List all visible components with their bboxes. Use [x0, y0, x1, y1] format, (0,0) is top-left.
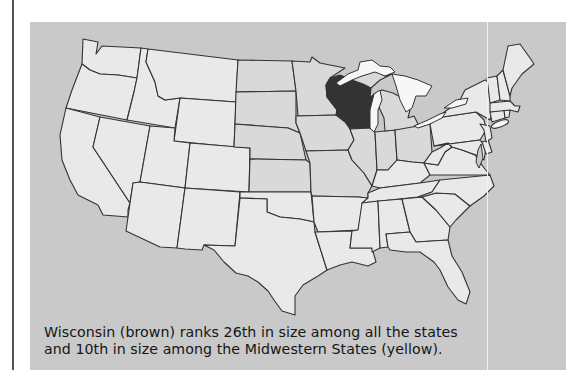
state-massachusetts — [490, 101, 520, 112]
state-arizona — [126, 182, 185, 248]
state-kansas — [249, 159, 311, 192]
map-caption: Wisconsin (brown) ranks 26th in size amo… — [44, 324, 544, 358]
us-map — [0, 0, 588, 370]
state-north-dakota — [236, 60, 296, 92]
state-florida — [386, 232, 470, 304]
state-montana — [146, 49, 238, 102]
state-new-mexico — [177, 188, 240, 250]
state-ohio — [395, 124, 432, 163]
state-wyoming — [174, 98, 236, 147]
caption-line-1: Wisconsin (brown) ranks 26th in size amo… — [44, 324, 544, 341]
caption-line-2: and 10th in size among the Midwestern St… — [44, 341, 544, 358]
state-colorado — [185, 143, 250, 192]
scan-artifact-line — [487, 22, 488, 370]
state-maine — [503, 44, 534, 96]
state-rhode-island — [504, 110, 510, 118]
